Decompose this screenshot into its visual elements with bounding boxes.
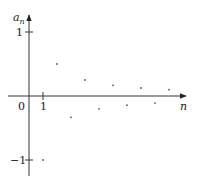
x-axis-label: n [180, 100, 187, 113]
y-axis-label: an [13, 11, 25, 26]
data-point [70, 116, 72, 118]
axes [8, 15, 186, 176]
data-point [154, 102, 156, 104]
y-tick-label-minus-1: −1 [10, 154, 26, 167]
data-point [98, 108, 100, 110]
data-point [112, 84, 114, 86]
y-tick-label-1: 1 [16, 26, 23, 39]
data-point [168, 89, 170, 91]
origin-label: 0 [18, 100, 25, 113]
data-point [84, 79, 86, 81]
data-point [126, 104, 128, 106]
sequence-plot: an n 0 1 1 −1 [0, 0, 198, 180]
data-point [42, 159, 44, 161]
x-tick-label-1: 1 [40, 100, 47, 113]
data-points [42, 63, 170, 161]
data-point [140, 87, 142, 89]
axis-labels: an n 0 1 1 −1 [10, 11, 187, 167]
data-point [56, 63, 58, 65]
